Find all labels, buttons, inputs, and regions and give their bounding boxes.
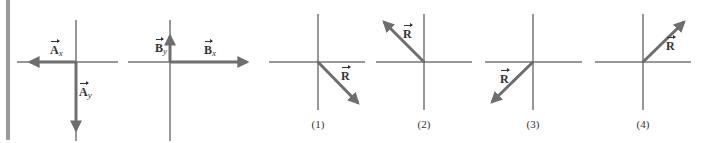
diagram-canvas — [0, 0, 701, 143]
label-ay: Ay — [79, 86, 92, 100]
label-by: By — [155, 42, 167, 56]
vector-r-arrow — [492, 62, 533, 102]
label-r-4: R — [666, 40, 675, 52]
diagram-1 — [269, 14, 365, 110]
vector-r-arrow — [318, 62, 358, 103]
caption-2: (2) — [418, 118, 431, 130]
label-r-1: R — [341, 70, 350, 82]
diagram-2 — [376, 14, 472, 110]
label-bx: Bx — [204, 44, 216, 58]
diagram-b — [128, 20, 247, 141]
label-r-2: R — [403, 28, 412, 40]
label-ax: Ax — [50, 44, 63, 58]
caption-3: (3) — [527, 118, 540, 130]
vector-r-arrow — [643, 22, 684, 62]
diagram-4 — [595, 14, 691, 110]
caption-1: (1) — [312, 118, 325, 130]
label-r-3: R — [500, 73, 509, 85]
diagram-3 — [485, 14, 582, 110]
caption-4: (4) — [637, 118, 650, 130]
diagram-a — [17, 20, 118, 141]
vector-diagram-figure: Ax Ay By Bx R R R R (1) (2) (3) (4) — [0, 0, 701, 143]
